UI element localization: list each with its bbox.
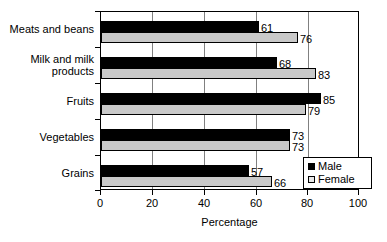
xtick-label-0: 0 (80, 197, 120, 209)
bar-label-fruits-female: 79 (308, 106, 320, 117)
ytick-3 (95, 119, 100, 120)
xtick-label-60: 60 (236, 197, 276, 209)
bar-fruits-male[interactable] (101, 93, 321, 104)
ytick-4 (95, 155, 100, 156)
bar-label-milk-and-milk-products-female: 83 (318, 70, 330, 81)
bar-meats-and-beans-male[interactable] (101, 21, 259, 32)
x-axis-title: Percentage (100, 216, 359, 229)
bar-vegetables-female[interactable] (101, 140, 290, 151)
legend: Male Female (303, 157, 372, 189)
xtick-100 (358, 190, 359, 195)
legend-label-female: Female (318, 173, 355, 186)
bar-group-meats-and-beans (101, 12, 358, 48)
bar-chart: 61 76 68 83 85 79 73 73 57 66 Meats and … (0, 0, 387, 242)
category-label-meats-and-beans: Meats and beans (10, 23, 94, 35)
bar-label-meats-and-beans-male: 61 (261, 23, 273, 34)
xtick-0 (100, 190, 101, 195)
xtick-40 (204, 190, 205, 195)
category-label-milk-and-milk-products: Milk and milk products (30, 53, 94, 77)
bar-group-vegetables (101, 120, 358, 156)
bar-grains-female[interactable] (101, 176, 272, 187)
ytick-1 (95, 47, 100, 48)
category-label-vegetables: Vegetables (40, 131, 94, 143)
legend-swatch-female-icon (308, 176, 315, 183)
bar-label-grains-male: 57 (251, 167, 263, 178)
xtick-20 (152, 190, 153, 195)
ytick-2 (95, 83, 100, 84)
bar-label-milk-and-milk-products-male: 68 (279, 59, 291, 70)
bar-label-fruits-male: 85 (323, 95, 335, 106)
bar-milk-and-milk-products-male[interactable] (101, 57, 277, 68)
bar-grains-male[interactable] (101, 165, 249, 176)
bar-fruits-female[interactable] (101, 104, 306, 115)
ytick-0 (95, 11, 100, 12)
legend-item-male[interactable]: Male (308, 160, 371, 173)
xtick-label-80: 80 (287, 197, 327, 209)
xtick-60 (256, 190, 257, 195)
xtick-label-40: 40 (184, 197, 224, 209)
xtick-80 (307, 190, 308, 195)
xtick-label-100: 100 (338, 197, 378, 209)
bar-vegetables-male[interactable] (101, 129, 290, 140)
legend-label-male: Male (318, 160, 342, 173)
legend-swatch-male-icon (308, 163, 315, 170)
bar-label-vegetables-female: 73 (292, 142, 304, 153)
xtick-label-20: 20 (132, 197, 172, 209)
bar-label-meats-and-beans-female: 76 (300, 34, 312, 45)
category-label-fruits: Fruits (67, 95, 95, 107)
legend-item-female[interactable]: Female (308, 173, 371, 186)
bar-label-grains-female: 66 (274, 178, 286, 189)
category-label-grains: Grains (62, 167, 94, 179)
